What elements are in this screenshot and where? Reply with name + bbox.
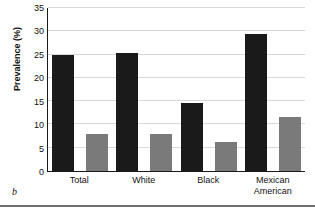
panel-letter: b <box>12 186 17 197</box>
figure-panel: Prevalence (%) 35302520151050 TotalWhite… <box>0 0 315 213</box>
bar-group <box>181 8 237 171</box>
bar <box>181 103 203 171</box>
y-tick-label: 30 <box>34 26 44 36</box>
bar <box>116 53 138 171</box>
x-tick-label-line: Mexican <box>241 175 306 186</box>
y-axis-tick-labels: 35302520151050 <box>22 8 44 172</box>
bar <box>279 117 301 171</box>
y-tick-label: 0 <box>39 167 44 177</box>
bar-groups <box>48 8 305 171</box>
plot-area <box>47 8 305 172</box>
bar <box>215 142 237 171</box>
x-tick-label: White <box>112 175 177 197</box>
bar-group <box>116 8 172 171</box>
x-tick-label: Total <box>47 175 112 197</box>
bar <box>52 55 74 171</box>
y-tick-label: 20 <box>34 73 44 83</box>
x-tick-label-line: American <box>241 186 306 197</box>
x-tick-label-line: White <box>112 175 177 186</box>
x-tick-label: MexicanAmerican <box>241 175 306 197</box>
bar <box>245 34 267 171</box>
x-tick-label: Black <box>176 175 241 197</box>
y-tick-label: 25 <box>34 50 44 60</box>
y-tick-label: 35 <box>34 3 44 13</box>
bar-group <box>245 8 301 171</box>
y-tick-label: 15 <box>34 97 44 107</box>
y-axis-label: Prevalence (%) <box>12 4 22 114</box>
x-tick-label-line: Total <box>47 175 112 186</box>
bar <box>150 134 172 171</box>
x-axis-tick-labels: TotalWhiteBlackMexicanAmerican <box>47 175 305 197</box>
bottom-divider <box>0 205 315 207</box>
x-tick-label-line: Black <box>176 175 241 186</box>
bar <box>86 134 108 171</box>
bar-group <box>52 8 108 171</box>
y-tick-label: 10 <box>34 120 44 130</box>
y-tick-label: 5 <box>39 144 44 154</box>
